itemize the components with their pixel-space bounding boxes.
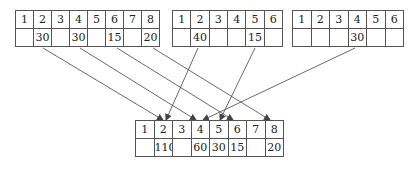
table-bottom-merged: 1 2 3 4 5 6 7 8 110 60 30 15 20	[135, 120, 284, 157]
value-cell	[52, 29, 70, 47]
index-cell: 1	[293, 11, 312, 29]
value-cell: 110	[154, 139, 173, 157]
index-cell: 5	[246, 11, 264, 29]
value-cell	[173, 29, 191, 47]
index-cell: 4	[191, 121, 210, 139]
arrow-tl6-to-b6	[117, 48, 233, 120]
value-cell: 15	[246, 29, 264, 47]
value-cell	[367, 29, 386, 47]
index-cell: 1	[173, 11, 191, 29]
index-cell: 5	[367, 11, 386, 29]
value-cell	[227, 29, 245, 47]
value-cell	[330, 29, 349, 47]
index-cell: 2	[191, 11, 209, 29]
index-cell: 7	[124, 11, 142, 29]
value-cell: 30	[34, 29, 52, 47]
value-row: 30	[293, 29, 404, 47]
table-top-middle: 1 2 3 4 5 6 40 15	[172, 10, 283, 47]
index-row: 1 2 3 4 5 6	[293, 11, 404, 29]
index-cell: 6	[385, 11, 404, 29]
index-cell: 3	[209, 11, 227, 29]
index-cell: 1	[16, 11, 34, 29]
value-row: 30 30 15 20	[16, 29, 160, 47]
index-cell: 8	[142, 11, 160, 29]
value-cell	[293, 29, 312, 47]
index-cell: 5	[210, 121, 229, 139]
value-cell: 20	[265, 139, 284, 157]
index-cell: 6	[106, 11, 124, 29]
index-cell: 6	[228, 121, 247, 139]
index-cell: 5	[88, 11, 106, 29]
index-row: 1 2 3 4 5 6	[173, 11, 283, 29]
index-cell: 4	[70, 11, 88, 29]
index-cell: 2	[34, 11, 52, 29]
index-cell: 3	[330, 11, 349, 29]
index-cell: 1	[136, 121, 155, 139]
value-cell	[209, 29, 227, 47]
index-cell: 7	[247, 121, 266, 139]
index-cell: 6	[264, 11, 282, 29]
index-cell: 4	[227, 11, 245, 29]
value-cell: 15	[106, 29, 124, 47]
value-cell: 30	[210, 139, 229, 157]
value-cell	[88, 29, 106, 47]
value-cell	[136, 139, 155, 157]
index-cell: 3	[52, 11, 70, 29]
index-cell: 8	[265, 121, 284, 139]
value-cell	[311, 29, 330, 47]
arrow-tl4-to-b4	[80, 48, 196, 120]
table-top-left: 1 2 3 4 5 6 7 8 30 30 15 20	[15, 10, 160, 47]
value-row: 40 15	[173, 29, 283, 47]
value-cell: 30	[348, 29, 367, 47]
table-top-right: 1 2 3 4 5 6 30	[292, 10, 404, 47]
value-cell	[16, 29, 34, 47]
index-row: 1 2 3 4 5 6 7 8	[136, 121, 284, 139]
value-cell	[385, 29, 404, 47]
index-cell: 2	[311, 11, 330, 29]
value-cell	[247, 139, 266, 157]
value-cell: 60	[191, 139, 210, 157]
value-cell	[173, 139, 192, 157]
value-cell	[124, 29, 142, 47]
value-row: 110 60 30 15 20	[136, 139, 284, 157]
index-cell: 4	[348, 11, 367, 29]
value-cell: 15	[228, 139, 247, 157]
arrow-tr4-to-b4	[203, 48, 355, 120]
arrow-tl2-to-b2	[43, 48, 163, 120]
value-cell: 20	[142, 29, 160, 47]
value-cell	[264, 29, 282, 47]
index-row: 1 2 3 4 5 6 7 8	[16, 11, 160, 29]
index-cell: 2	[154, 121, 173, 139]
value-cell: 30	[70, 29, 88, 47]
value-cell: 40	[191, 29, 209, 47]
index-cell: 3	[173, 121, 192, 139]
